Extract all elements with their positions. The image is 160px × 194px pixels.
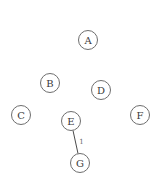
node-d: D (92, 81, 111, 100)
node-g-label: G (76, 158, 84, 169)
nodes-layer: A B D C E F G (12, 31, 150, 173)
edge-e-g (73, 131, 78, 154)
node-b: B (41, 74, 60, 93)
node-f-label: F (137, 110, 144, 121)
edges-layer: 1 (73, 131, 84, 154)
node-a-label: A (83, 35, 92, 46)
node-d-label: D (97, 85, 105, 96)
node-f: F (131, 106, 150, 125)
node-e-label: E (67, 116, 74, 127)
node-g: G (71, 154, 90, 173)
node-b-label: B (46, 78, 53, 89)
node-c: C (12, 106, 31, 125)
node-c-label: C (17, 110, 25, 121)
node-a: A (79, 31, 98, 50)
node-e: E (62, 112, 81, 131)
edge-e-g-weight-label: 1 (79, 138, 83, 146)
graph-diagram: 1 A B D C E F G (0, 0, 160, 194)
